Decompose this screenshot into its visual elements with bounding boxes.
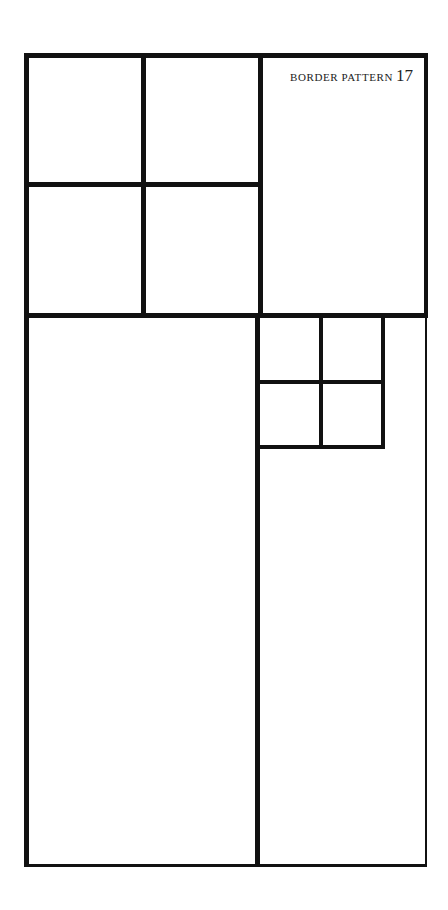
small-grid-horizontal-middle [258, 380, 384, 384]
pattern-number: 17 [396, 66, 413, 85]
frame-left [24, 53, 29, 867]
center-divider-lower [255, 314, 260, 867]
pattern-title: BORDER PATTERN17 [290, 66, 413, 86]
pattern-title-text: BORDER PATTERN [290, 71, 393, 83]
main-horizontal-divider [24, 313, 428, 318]
frame-right-upper [424, 53, 428, 317]
frame-right-lower [425, 316, 427, 867]
small-grid-horizontal-bottom [258, 445, 385, 449]
frame-top [24, 53, 428, 58]
top-grid-horizontal [24, 182, 261, 187]
frame-bottom [24, 864, 427, 867]
